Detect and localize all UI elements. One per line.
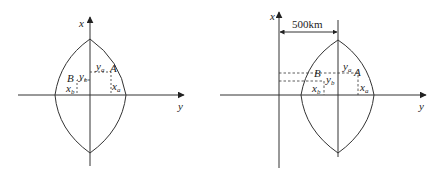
left-point-a-label: A [109, 62, 117, 74]
right-point-a-label: A [353, 66, 361, 78]
distance-label: 500km [292, 18, 323, 30]
right-yb-label: yb [325, 73, 335, 87]
left-xb-label: xb [65, 82, 75, 96]
left-figure: x y ya A B yb xb xa [18, 17, 184, 166]
left-xa-label: xa [111, 80, 121, 94]
right-y-axis-label: y [418, 100, 424, 112]
left-y-axis-label: y [177, 100, 183, 112]
left-x-axis-label: x [78, 17, 84, 29]
right-point-b-label: B [314, 67, 321, 79]
right-ya-label: ya [342, 60, 352, 74]
right-xb-label: xb [311, 82, 321, 96]
left-yb-label: yb [78, 70, 88, 84]
left-ya-label: ya [95, 60, 105, 74]
right-figure: 500km x y ya A B yb xb xa [220, 10, 426, 168]
left-point-a-guides [90, 72, 111, 95]
diagram-canvas: x y ya A B yb xb xa 500km x y ya A B yb … [0, 0, 437, 177]
right-x-axis-label: x [269, 10, 275, 22]
right-xa-label: xa [359, 81, 369, 95]
